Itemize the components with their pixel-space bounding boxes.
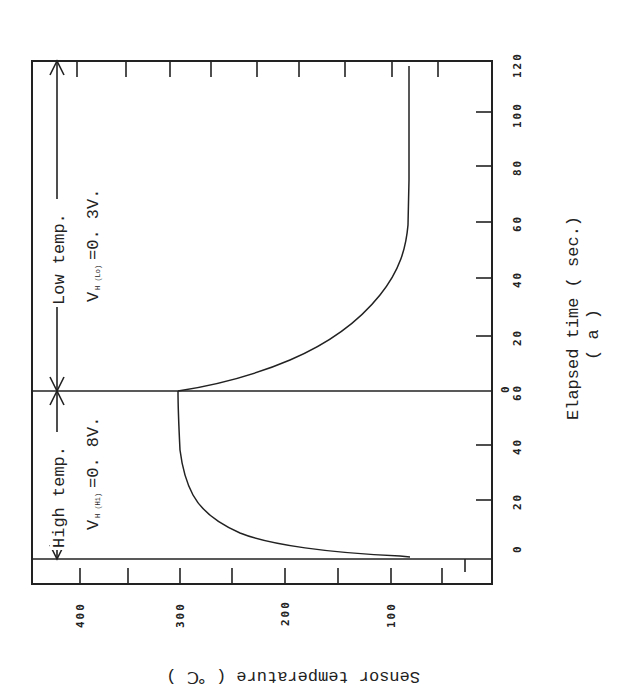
svg-text:High temp.: High temp. bbox=[50, 446, 69, 548]
temperature-axis-ticks bbox=[80, 559, 465, 584]
svg-text:60: 60 bbox=[511, 215, 524, 232]
v-lo-annotation: V H (Lo) =0. 3V. bbox=[84, 189, 103, 302]
x-axis-title: Elapsed time ( sec.) bbox=[564, 216, 583, 420]
svg-text:40: 40 bbox=[511, 271, 524, 288]
svg-text:=0. 8V.: =0. 8V. bbox=[84, 417, 103, 488]
svg-text:H (Hi): H (Hi) bbox=[94, 493, 102, 518]
svg-text:100: 100 bbox=[511, 102, 524, 128]
svg-text:H (Lo): H (Lo) bbox=[94, 265, 102, 290]
time-axis-ticks bbox=[476, 112, 492, 500]
svg-text:Low temp.: Low temp. bbox=[50, 213, 69, 305]
svg-text:40: 40 bbox=[511, 438, 524, 455]
temperature-tick-labels: 400 300 200 100 bbox=[74, 600, 398, 628]
svg-text:200: 200 bbox=[279, 600, 292, 626]
svg-text:V: V bbox=[84, 291, 103, 302]
svg-text:80: 80 bbox=[511, 159, 524, 176]
panel-label: ( a ) bbox=[584, 309, 603, 360]
low-temp-curve bbox=[178, 66, 409, 391]
svg-text:60: 60 bbox=[511, 384, 524, 401]
high-temp-curve bbox=[178, 391, 410, 557]
chart-canvas: High temp. Low temp. V H (Hi) =0. 8V. V … bbox=[0, 0, 623, 699]
svg-text:V: V bbox=[84, 519, 103, 530]
y-axis-title: Sensor temperature ( ℃ ) bbox=[166, 667, 420, 686]
svg-text:120: 120 bbox=[511, 52, 524, 78]
svg-text:0: 0 bbox=[499, 384, 512, 393]
svg-text:0: 0 bbox=[511, 544, 524, 553]
svg-text:20: 20 bbox=[511, 329, 524, 346]
svg-text:=0. 3V.: =0. 3V. bbox=[84, 189, 103, 260]
high-temp-label: High temp. bbox=[50, 432, 70, 550]
svg-text:100: 100 bbox=[385, 602, 398, 628]
svg-text:300: 300 bbox=[174, 602, 187, 628]
time-tick-labels: 0 20 40 60 0 20 40 60 80 100 120 bbox=[499, 52, 524, 553]
svg-text:20: 20 bbox=[511, 493, 524, 510]
low-temp-label: Low temp. bbox=[50, 199, 70, 307]
svg-text:400: 400 bbox=[74, 602, 87, 628]
temperature-axis-top-ticks bbox=[77, 61, 438, 77]
v-hi-annotation: V H (Hi) =0. 8V. bbox=[84, 417, 103, 530]
